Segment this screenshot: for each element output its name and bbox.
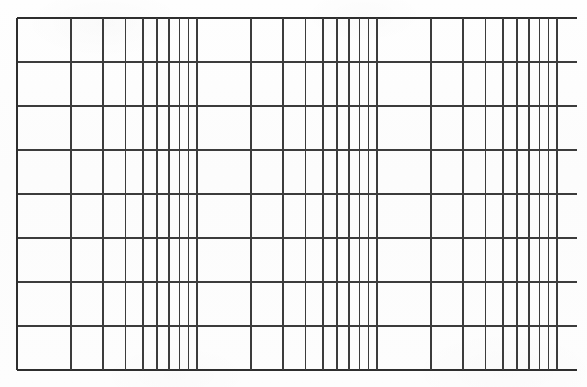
graph-paper-page — [0, 0, 587, 387]
horizontal-gridline-group — [17, 18, 577, 370]
semi-log-grid — [0, 0, 587, 387]
